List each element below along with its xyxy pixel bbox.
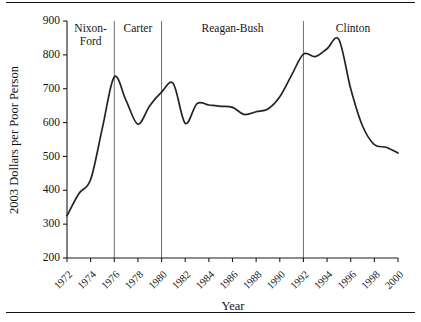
y-tick-label: 500 (43, 150, 61, 162)
y-tick-label: 400 (43, 183, 61, 195)
era-label: Clinton (336, 22, 371, 34)
x-tick-label: 1974 (75, 268, 98, 291)
x-tick-label: 1976 (99, 269, 122, 292)
era-label-group: Nixon-FordCarterReagan-BushClinton (74, 22, 370, 47)
x-tick-label: 1998 (359, 269, 382, 292)
x-tick-label: 1978 (123, 269, 146, 292)
x-tick-label: 1980 (146, 269, 169, 292)
x-tick-label: 1990 (265, 269, 288, 292)
data-series-line (67, 38, 398, 216)
era-label: Nixon- (74, 22, 107, 34)
x-tick-label: 1992 (288, 269, 311, 292)
x-tick-group: 1972197419761978198019821984198619881990… (52, 258, 406, 291)
x-tick-label: 1984 (194, 268, 217, 291)
y-tick-label: 300 (43, 217, 61, 229)
y-tick-label: 600 (43, 116, 61, 128)
y-tick-label: 800 (43, 48, 61, 60)
y-tick-label: 700 (43, 82, 61, 94)
x-tick-label: 1994 (312, 268, 335, 291)
axis-group (67, 21, 398, 258)
y-tick-label: 200 (43, 251, 61, 263)
era-divider-group (114, 21, 303, 258)
x-tick-label: 1996 (336, 269, 359, 292)
x-axis-title: Year (221, 299, 245, 313)
x-tick-label: 1988 (241, 269, 264, 292)
era-label: Carter (124, 22, 153, 34)
x-tick-label: 1972 (52, 269, 75, 292)
era-label: Reagan-Bush (202, 22, 264, 35)
x-tick-label: 1982 (170, 269, 193, 292)
figure-container: 200300400500600700800900 197219741976197… (0, 0, 421, 322)
era-label-line2: Ford (80, 35, 102, 47)
y-tick-group: 200300400500600700800900 (43, 14, 67, 263)
line-chart: 200300400500600700800900 197219741976197… (0, 0, 421, 322)
x-tick-label: 1986 (217, 269, 240, 292)
x-tick-label: 2000 (383, 269, 406, 292)
y-axis-title: 2003 Dollars per Poor Person (7, 65, 21, 214)
y-tick-label: 900 (43, 14, 61, 26)
